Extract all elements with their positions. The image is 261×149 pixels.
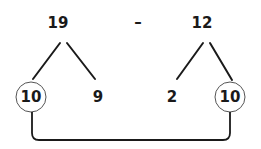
part-12-two: 2 <box>167 88 177 106</box>
part-19-ten: 10 <box>21 88 42 106</box>
subtrahend: 12 <box>192 14 213 32</box>
branch-lines <box>33 43 232 80</box>
connector-line <box>32 112 230 140</box>
part-19-nine: 9 <box>93 88 103 106</box>
minus-operator: – <box>134 13 142 31</box>
minuend: 19 <box>48 14 69 32</box>
part-12-ten: 10 <box>220 88 241 106</box>
branch-19-left <box>33 43 60 79</box>
number-bond-diagram: 19 – 12 10 9 2 10 <box>0 0 261 149</box>
branch-19-right <box>67 43 95 79</box>
branch-12-left <box>177 43 203 79</box>
branch-12-right <box>210 43 232 80</box>
